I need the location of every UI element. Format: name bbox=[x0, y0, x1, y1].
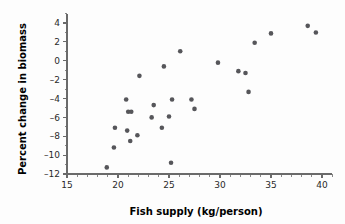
data-point bbox=[104, 165, 109, 170]
x-tick-label: 15 bbox=[61, 180, 72, 190]
data-point bbox=[170, 97, 175, 102]
data-point bbox=[137, 74, 142, 79]
data-point bbox=[167, 114, 172, 119]
x-tick-label: 35 bbox=[265, 180, 276, 190]
data-point bbox=[151, 103, 156, 108]
data-point bbox=[189, 97, 194, 102]
y-tick-label: 0 bbox=[54, 56, 60, 66]
data-point bbox=[192, 107, 197, 112]
data-point bbox=[128, 139, 133, 144]
data-point bbox=[135, 133, 140, 138]
x-axis-title: Fish supply (kg/person) bbox=[129, 206, 262, 217]
data-point bbox=[169, 160, 174, 165]
data-point bbox=[113, 125, 118, 130]
data-point bbox=[305, 24, 310, 29]
y-tick-label: –6 bbox=[50, 113, 61, 123]
data-point bbox=[216, 60, 221, 65]
data-point bbox=[112, 145, 117, 150]
y-axis-title: Percent change in biomass bbox=[17, 23, 28, 175]
data-point bbox=[160, 125, 165, 130]
y-tick-label: 4 bbox=[54, 18, 60, 28]
data-point bbox=[124, 97, 129, 102]
y-tick-label: –12 bbox=[44, 169, 60, 179]
data-point bbox=[129, 109, 134, 114]
data-point bbox=[243, 71, 248, 76]
scatter-plot-canvas: 420–2–4–6–8–10–12152025303540 Fish suppl… bbox=[0, 0, 345, 224]
data-point bbox=[236, 69, 241, 74]
x-tick-label: 40 bbox=[316, 180, 328, 190]
y-tick-label: –8 bbox=[50, 131, 61, 141]
data-point bbox=[149, 115, 154, 120]
data-point bbox=[162, 64, 167, 69]
y-tick-label: –4 bbox=[50, 94, 61, 104]
scatter-plot-figure: 420–2–4–6–8–10–12152025303540 Fish suppl… bbox=[0, 0, 345, 224]
x-tick-label: 25 bbox=[163, 180, 174, 190]
data-point bbox=[125, 128, 130, 133]
y-tick-label: –2 bbox=[50, 75, 60, 85]
data-point bbox=[269, 31, 274, 36]
y-tick-label: –10 bbox=[44, 150, 60, 160]
x-tick-label: 20 bbox=[112, 180, 124, 190]
data-point bbox=[178, 49, 183, 54]
data-point bbox=[246, 90, 251, 95]
data-point bbox=[252, 41, 257, 46]
x-tick-label: 30 bbox=[214, 180, 226, 190]
data-point bbox=[314, 30, 319, 35]
y-tick-label: 2 bbox=[54, 37, 60, 47]
